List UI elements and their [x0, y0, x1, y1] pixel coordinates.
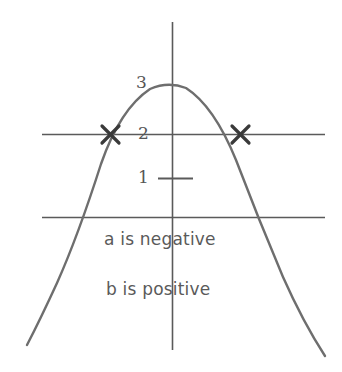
axis-tick-label-2: 2	[138, 125, 149, 142]
parabola-sketch-figure: 3 2 1 a is negative b is positive	[0, 0, 342, 372]
axis-tick-label-3: 3	[136, 74, 147, 91]
graph-drawing	[0, 0, 342, 372]
annotation-b-is-positive: b is positive	[106, 281, 210, 298]
annotation-a-is-negative: a is negative	[104, 231, 216, 248]
axis-tick-label-1: 1	[138, 169, 149, 186]
parabola-curve	[27, 85, 325, 356]
